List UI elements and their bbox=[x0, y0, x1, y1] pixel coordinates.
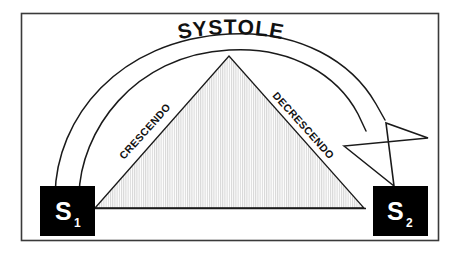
figure-root: S 1 S 2 SYSTOLE CRESCENDO DECRESCENDO bbox=[0, 0, 459, 254]
s1-subscript: 1 bbox=[74, 216, 81, 230]
systolic-murmur-diagram: S 1 S 2 SYSTOLE CRESCENDO DECRESCENDO bbox=[0, 0, 459, 254]
systole-label-text: SYSTOLE bbox=[176, 15, 287, 43]
systole-label: SYSTOLE bbox=[176, 15, 287, 43]
timeline-arrowhead bbox=[344, 123, 428, 186]
s2-letter: S bbox=[387, 197, 404, 225]
s2-subscript: 2 bbox=[406, 216, 413, 230]
s1-letter: S bbox=[55, 197, 72, 225]
